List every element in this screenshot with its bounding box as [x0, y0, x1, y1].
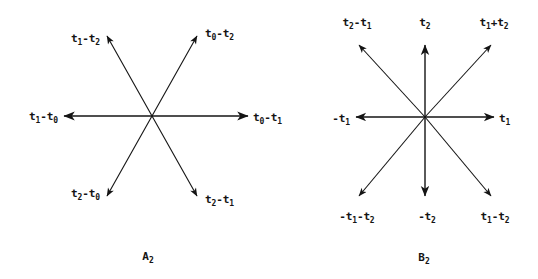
a2-root-system: t0-t1 --> [64, 36, 248, 196]
a2-caption: A2 [142, 251, 153, 262]
a2-arrow-t0-minus-t2 [152, 36, 197, 116]
b2-caption: B2 [418, 252, 429, 263]
a2-label-t1-minus-t0: t1-t0 [29, 111, 58, 122]
a2-arrow-t2-minus-t1 [152, 116, 197, 196]
b2-label-t2: t2 [419, 17, 430, 28]
b2-label-t1-plus-t2: t1+t2 [480, 17, 509, 28]
b2-arrow-t2-minus-t1 [359, 45, 425, 117]
b2-label-t1-minus-t2: t1-t2 [481, 211, 510, 222]
b2-label-t1: t1 [499, 113, 510, 124]
b2-label-neg-t1: -t1 [332, 113, 350, 124]
b2-arrow-t1-plus-t2 [425, 45, 491, 117]
a2-label-t2-minus-t1: t2-t1 [205, 194, 234, 205]
b2-root-system [356, 45, 494, 196]
b2-label-neg-t2: -t2 [418, 211, 436, 222]
a2-label-t0-minus-t1: t0-t1 [253, 112, 282, 123]
b2-label-t2-minus-t1: t2-t1 [343, 17, 372, 28]
a2-arrow-t1-minus-t2 [107, 36, 152, 116]
figure-page: t0-t1 --> t1-t0 t0-t1 t0-t2 t1-t2 [0, 0, 538, 279]
a2-label-t2-minus-t0: t2-t0 [71, 188, 100, 199]
a2-label-t1-minus-t2: t1-t2 [71, 33, 100, 44]
a2-arrow-t2-minus-t0 [107, 116, 152, 196]
b2-arrow-neg-t1-minus-t2 [359, 117, 425, 196]
b2-arrow-t1-minus-t2 [425, 117, 491, 196]
a2-label-t0-minus-t2: t0-t2 [205, 28, 234, 39]
b2-label-neg-t1-minus-t2: -t1-t2 [339, 211, 374, 222]
